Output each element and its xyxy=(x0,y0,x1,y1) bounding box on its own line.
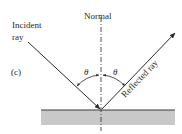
reflection-diagram: Normal Incident ray (c) θ θ Reflected ra… xyxy=(0,0,182,134)
incident-label-line1: Incident xyxy=(12,20,42,30)
incident-label-line2: ray xyxy=(12,32,24,42)
theta-reflected-label: θ xyxy=(113,67,118,77)
normal-label: Normal xyxy=(84,11,112,21)
reflected-ray-label: Reflected ray xyxy=(119,57,160,99)
panel-label: (c) xyxy=(11,67,21,77)
reflecting-surface xyxy=(41,110,175,125)
incident-ray xyxy=(28,42,100,109)
theta-incident-label: θ xyxy=(84,67,89,77)
